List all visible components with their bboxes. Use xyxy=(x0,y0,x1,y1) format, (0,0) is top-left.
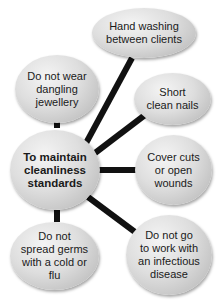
bubble-label: Hand washing between clients xyxy=(106,20,182,46)
bubble-label: Do not go to work with an infectious dis… xyxy=(138,229,200,281)
bubble-jewellery: Do not wear dangling jewellery xyxy=(15,55,99,123)
connector-nails xyxy=(95,115,145,153)
bubble-label: Short clean nails xyxy=(147,86,199,112)
connector-infectious xyxy=(88,197,135,232)
center-bubble: To maintain cleanliness standards xyxy=(10,130,100,210)
bubble-infectious: Do not go to work with an infectious dis… xyxy=(126,215,212,295)
bubble-label: Do not wear dangling jewellery xyxy=(27,70,86,109)
bubble-label: Do not spread germs with a cold or flu xyxy=(21,230,88,282)
bubble-hand-washing: Hand washing between clients xyxy=(92,8,196,58)
bubble-cuts: Cover cuts or open wounds xyxy=(135,135,212,205)
bubble-germs: Do not spread germs with a cold or flu xyxy=(10,222,99,290)
center-label: To maintain cleanliness standards xyxy=(23,151,87,190)
bubble-nails: Short clean nails xyxy=(134,73,211,125)
bubble-label: Cover cuts or open wounds xyxy=(147,151,200,190)
